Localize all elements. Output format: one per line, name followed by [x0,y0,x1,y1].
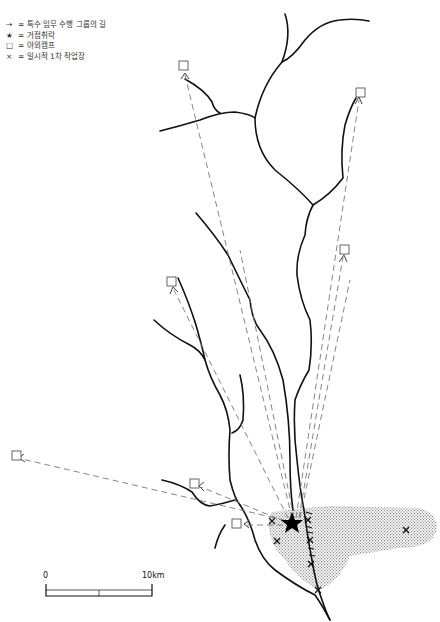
scale-start-label: 0 [43,571,48,580]
river-central [196,213,293,510]
map-legend: ⇢ = 특수 임무 수행 그룹의 길 ★ = 거점취락 □ = 야외캠프 × =… [6,20,106,62]
river-sw-stub [215,525,225,548]
scale-end-label: 10km [142,571,165,580]
legend-item-path: ⇢ = 특수 임무 수행 그룹의 길 [6,20,106,31]
river-west [178,278,240,505]
star-icon: ★ [6,31,18,42]
arrow-heads [19,73,362,528]
river-northwest [160,112,255,131]
dashed-arrow-icon: ⇢ [6,20,18,31]
legend-item-base: ★ = 거점취락 [6,31,106,42]
river-north-top [282,14,288,62]
field-camps [12,61,365,528]
river-main-upper [255,62,313,205]
legend-item-workshop: × = 일시적 1차 작업장 [6,52,106,63]
scale-bar [46,584,152,596]
task-group-paths [22,75,359,525]
square-icon: □ [6,41,18,52]
cross-icon: × [6,52,18,63]
river-east [313,98,356,205]
legend-item-camp: □ = 야외캠프 [6,41,106,52]
map-canvas [0,0,440,622]
river-west-branch [154,320,205,360]
river-mid-branch [232,375,244,433]
river-north-east [282,19,369,62]
